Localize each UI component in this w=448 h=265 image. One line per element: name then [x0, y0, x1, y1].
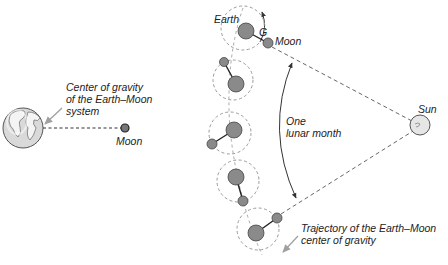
lunar-month-line-2: lunar month: [286, 127, 341, 139]
earth-moon-positions: [207, 6, 282, 250]
trajectory-label-line-1: Trajectory of the Earth–Moon: [301, 222, 436, 234]
earth-icon: [238, 23, 254, 39]
lunar-month-line-1: One: [286, 115, 341, 127]
earth-moon-position: [217, 160, 259, 206]
sun-line-bottom: [281, 131, 413, 214]
earth-moon-position: [207, 112, 251, 154]
sun-label: Sun: [418, 103, 437, 115]
moon-icon: [272, 213, 282, 223]
cog-pointer-arrow: [45, 108, 62, 124]
right-moon-label: Moon: [275, 35, 301, 47]
sun-line-top: [272, 47, 412, 121]
earth-icon: [248, 225, 264, 241]
cog-label-line-2: of the Earth–Moon: [66, 93, 152, 105]
cog-label-line-1: Center of gravity: [66, 81, 152, 93]
g-label: G: [259, 26, 267, 38]
left-moon-label: Moon: [116, 135, 142, 147]
cog-label-line-3: system: [66, 105, 152, 117]
sun-icon: [410, 115, 430, 135]
moon-small-icon: [121, 124, 129, 132]
moon-icon: [220, 58, 229, 67]
moon-icon: [263, 38, 273, 48]
earth-icon: [226, 122, 242, 138]
cog-label: Center of gravity of the Earth–Moon syst…: [66, 81, 152, 117]
moon-icon: [207, 139, 217, 149]
trajectory-label-line-2: center of gravity: [301, 234, 436, 246]
earth-globe-icon: [3, 108, 43, 148]
trajectory-label: Trajectory of the Earth–Moon center of g…: [301, 222, 436, 246]
lunar-month-label: One lunar month: [286, 115, 341, 139]
earth-moon-position: [213, 58, 253, 101]
earth-icon: [228, 169, 244, 185]
trajectory-pointer-arrow: [283, 236, 298, 252]
earth-icon: [228, 76, 244, 92]
earth-label: Earth: [214, 13, 239, 25]
earth-moon-position: [237, 208, 282, 250]
moon-icon: [238, 196, 248, 206]
